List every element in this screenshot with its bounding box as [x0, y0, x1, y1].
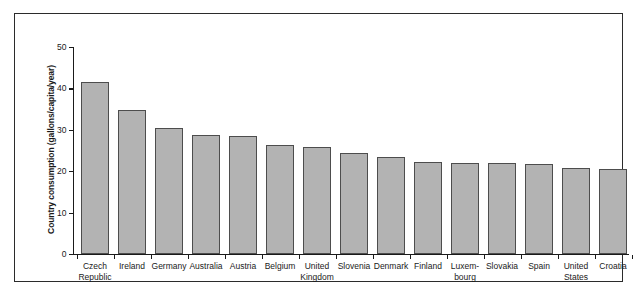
bar: [562, 168, 590, 254]
y-tick-mark: [69, 130, 74, 131]
bar: [414, 162, 442, 254]
y-tick-mark: [69, 88, 74, 89]
x-tick-mark: [114, 255, 115, 260]
bar: [377, 157, 405, 254]
bar: [118, 110, 146, 254]
x-tick-mark: [225, 255, 226, 260]
chart-frame: Country consumption (gallons/capita/year…: [14, 13, 623, 282]
y-axis-title: Country consumption (gallons/capita/year…: [44, 42, 58, 257]
x-tick-mark: [151, 255, 152, 260]
x-tick-mark: [336, 255, 337, 260]
bar: [451, 163, 479, 254]
bar: [155, 128, 183, 254]
y-tick-label: 10: [57, 208, 66, 218]
x-tick-mark: [410, 255, 411, 260]
y-tick-mark: [69, 47, 74, 48]
x-tick-mark: [77, 255, 78, 260]
bar: [303, 147, 331, 254]
bar: [229, 136, 257, 254]
chart-figure: Country consumption (gallons/capita/year…: [0, 0, 643, 295]
y-tick-label: 40: [57, 83, 66, 93]
bar: [81, 82, 109, 254]
x-tick-mark: [484, 255, 485, 260]
y-tick-label: 0: [62, 249, 67, 259]
y-tick-mark: [69, 171, 74, 172]
y-tick-mark: [69, 254, 74, 255]
x-tick-mark: [447, 255, 448, 260]
x-tick-mark: [188, 255, 189, 260]
y-tick-label: 50: [57, 42, 66, 52]
y-tick-label: 30: [57, 125, 66, 135]
y-tick-mark: [69, 213, 74, 214]
x-tick-mark: [632, 255, 633, 260]
y-tick-label: 20: [57, 166, 66, 176]
x-tick-mark: [521, 255, 522, 260]
bar: [192, 135, 220, 254]
bar: [599, 169, 627, 254]
x-tick-mark: [299, 255, 300, 260]
x-tick-mark: [558, 255, 559, 260]
x-tick-mark: [262, 255, 263, 260]
bar: [488, 163, 516, 254]
bar: [340, 153, 368, 254]
bar: [525, 164, 553, 254]
plot-area: 01020304050 Czech RepublicIrelandGermany…: [73, 44, 633, 254]
x-tick-mark: [373, 255, 374, 260]
y-axis-line: [73, 47, 74, 254]
bar: [266, 145, 294, 254]
x-tick-label: Croatia: [591, 261, 635, 272]
x-tick-mark: [595, 255, 596, 260]
